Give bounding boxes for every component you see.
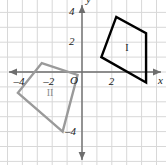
coordinate-plane-figure: 4 2 –4 –4 –2 2 O x y I II [0, 0, 166, 165]
y-axis-label: y [86, 0, 91, 5]
y-tick-label-2: 2 [69, 36, 75, 47]
x-tick-label-2: 2 [109, 76, 115, 87]
shape-1-label: I [125, 43, 128, 53]
y-tick-label-neg4: –4 [65, 126, 76, 137]
x-axis-label: x [158, 75, 163, 86]
origin-label: O [70, 75, 78, 86]
x-tick-label-neg4: –4 [13, 76, 24, 87]
x-tick-label-neg2: –2 [43, 76, 54, 87]
shape-2-label: II [47, 88, 54, 98]
plot-svg [0, 0, 166, 165]
y-tick-label-4: 4 [69, 6, 75, 17]
